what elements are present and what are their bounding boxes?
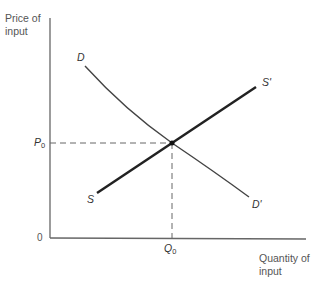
q0-label: Q0 — [164, 242, 176, 256]
supply-start-label: S — [87, 193, 94, 205]
x-axis-label-line2: input — [259, 265, 282, 277]
p0-label: P0 — [34, 136, 45, 150]
x-axis — [50, 238, 306, 239]
y-axis-label-line1: Price of — [5, 12, 41, 24]
x-axis-label-line1: Quantity of — [259, 252, 310, 264]
origin-label: 0 — [37, 232, 43, 243]
demand-start-label: D — [77, 51, 85, 63]
supply-demand-diagram: Price of input Quantity of input 0 P0 Q0… — [0, 0, 323, 282]
supply-end-label: S' — [262, 76, 272, 88]
y-axis-label-line2: input — [5, 25, 28, 37]
demand-curve — [85, 66, 249, 197]
supply-curve — [97, 87, 256, 193]
equilibrium-point — [170, 141, 175, 146]
demand-end-label: D' — [252, 198, 263, 210]
